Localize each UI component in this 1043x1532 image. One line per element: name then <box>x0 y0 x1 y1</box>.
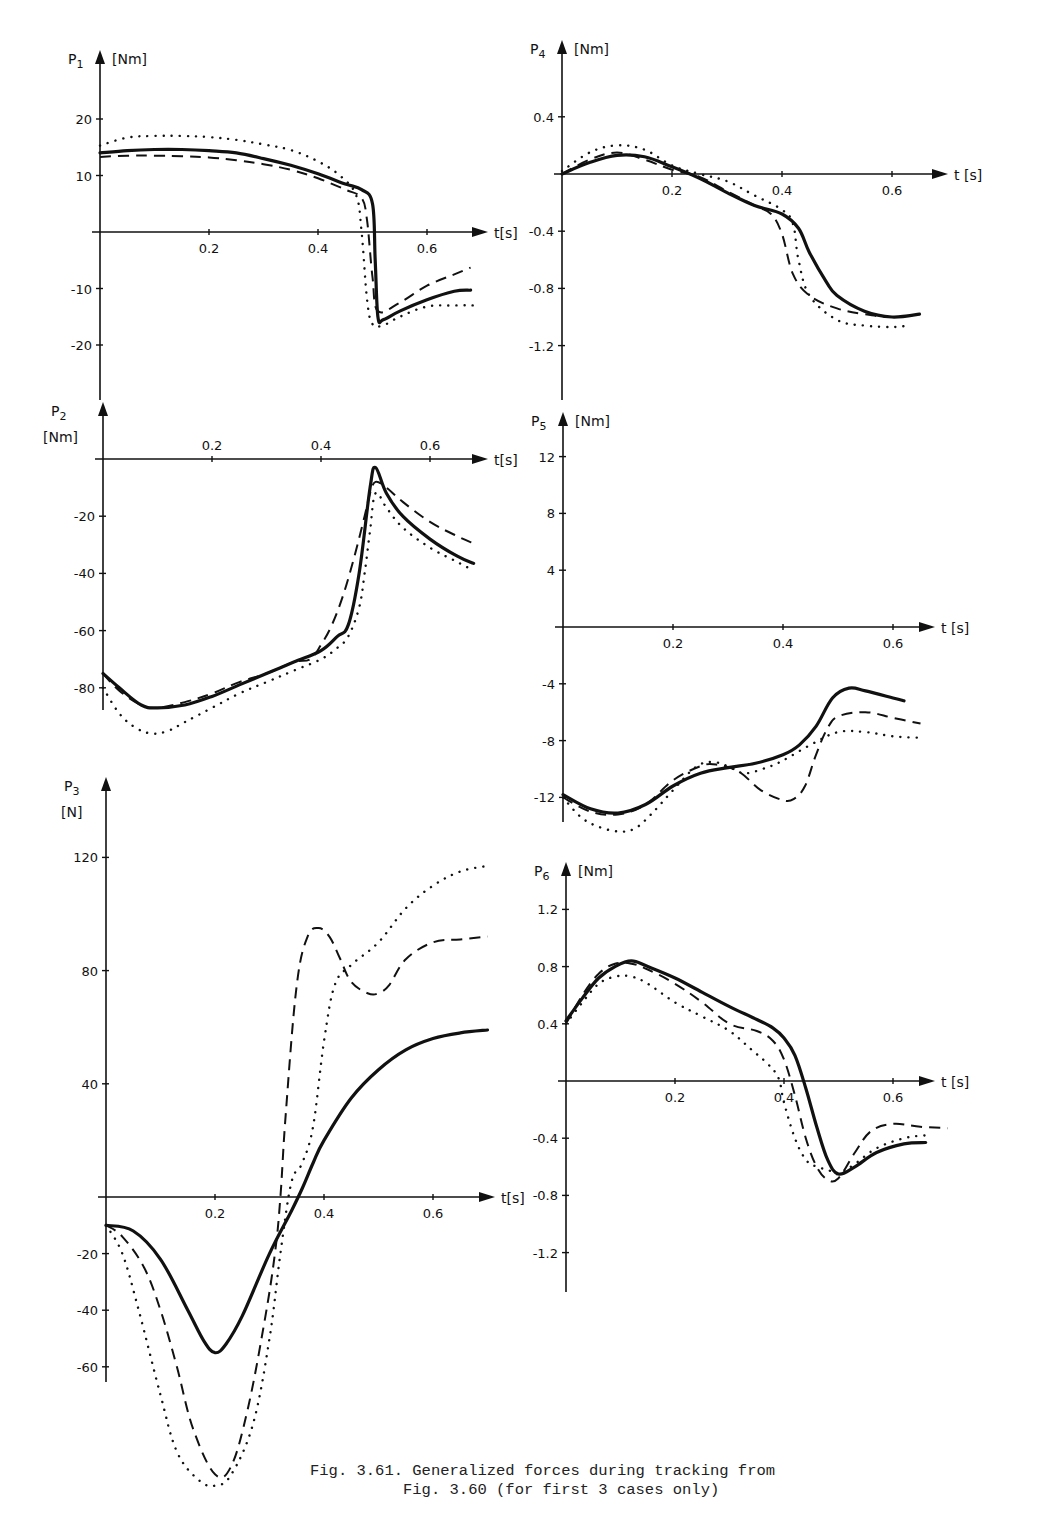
y-axis-unit: [Nm] <box>578 863 613 879</box>
x-tick-label: 0.4 <box>772 183 793 198</box>
x-axis-arrow-icon <box>919 622 935 632</box>
x-axis-label: t[s] <box>494 452 518 468</box>
y-tick-label: -0.8 <box>533 1188 558 1203</box>
x-tick-label: 0.6 <box>423 1206 444 1221</box>
x-tick-label: 0.2 <box>199 241 220 256</box>
y-axis-unit: [N] <box>61 804 82 820</box>
y-tick-label: 120 <box>73 850 98 865</box>
y-tick-label: 0.8 <box>537 960 558 975</box>
series-dotted <box>562 145 909 327</box>
y-axis-unit: [Nm] <box>43 429 78 445</box>
y-axis-arrow-icon <box>95 50 105 64</box>
x-tick-label: 0.4 <box>773 636 794 651</box>
y-tick-label: -40 <box>74 566 95 581</box>
y-tick-label: -60 <box>74 624 95 639</box>
x-tick-label: 0.6 <box>417 241 438 256</box>
series-solid <box>563 688 904 813</box>
y-tick-label: -4 <box>542 677 555 692</box>
y-axis-unit: [Nm] <box>575 413 610 429</box>
series-solid <box>106 1030 488 1353</box>
x-axis-label: t[s] <box>494 225 518 241</box>
y-axis-unit: [Nm] <box>112 51 147 67</box>
x-axis-arrow-icon <box>472 227 488 237</box>
y-tick-label: 12 <box>538 450 555 465</box>
panel-p6: 0.20.40.61.20.80.4-0.4-0.8-1.2t [s]P6[Nm… <box>533 862 970 1292</box>
figure-caption: Fig. 3.61. Generalized forces during tra… <box>310 1462 775 1500</box>
x-tick-label: 0.6 <box>883 636 904 651</box>
y-axis-symbol: P1 <box>68 51 83 71</box>
y-axis-arrow-icon <box>101 777 111 791</box>
y-tick-label: 1.2 <box>537 902 558 917</box>
y-tick-label: -8 <box>542 734 555 749</box>
series-dashed <box>100 156 471 313</box>
y-tick-label: 8 <box>547 506 555 521</box>
y-axis-symbol: P6 <box>534 863 549 883</box>
y-tick-label: -20 <box>77 1247 98 1262</box>
y-tick-label: 10 <box>75 169 92 184</box>
series-solid <box>562 155 920 317</box>
y-tick-label: 40 <box>81 1077 98 1092</box>
caption-line-2: Fig. 3.60 (for first 3 cases only) <box>310 1481 719 1499</box>
panel-p2: 0.20.40.6-20-40-60-80t[s]P2[Nm] <box>43 402 518 734</box>
x-axis-arrow-icon <box>479 1192 495 1202</box>
y-axis-arrow-icon <box>557 40 567 54</box>
y-tick-label: -20 <box>74 509 95 524</box>
x-tick-label: 0.2 <box>202 438 223 453</box>
y-tick-label: -1.2 <box>529 339 554 354</box>
figure-canvas: 0.20.40.62010-10-20t[s]P1[Nm]0.20.40.6-2… <box>0 0 1043 1532</box>
y-tick-label: 20 <box>75 112 92 127</box>
y-tick-label: 4 <box>547 563 555 578</box>
x-tick-label: 0.2 <box>205 1206 226 1221</box>
y-tick-label: -0.4 <box>533 1131 558 1146</box>
y-tick-label: -40 <box>77 1303 98 1318</box>
y-tick-label: -0.4 <box>529 224 554 239</box>
panel-p3: 0.20.40.61208040-20-40-60t[s]P3[N] <box>61 777 525 1486</box>
series-dotted <box>106 866 488 1486</box>
y-tick-label: 0.4 <box>537 1017 558 1032</box>
x-axis-arrow-icon <box>472 454 488 464</box>
x-tick-label: 0.2 <box>662 183 683 198</box>
y-tick-label: -1.2 <box>533 1246 558 1261</box>
series-dotted <box>566 976 926 1175</box>
x-axis-label: t [s] <box>941 1074 969 1090</box>
series-solid <box>103 467 474 707</box>
y-axis-arrow-icon <box>561 862 571 876</box>
y-axis-unit: [Nm] <box>574 41 609 57</box>
x-axis-arrow-icon <box>919 1076 935 1086</box>
y-axis-arrow-icon <box>558 412 568 426</box>
panel-p1: 0.20.40.62010-10-20t[s]P1[Nm] <box>68 50 518 400</box>
x-axis-label: t [s] <box>954 167 982 183</box>
x-tick-label: 0.2 <box>665 1090 686 1105</box>
y-tick-label: -0.8 <box>529 281 554 296</box>
y-tick-label: -20 <box>71 338 92 353</box>
y-axis-symbol: P2 <box>51 403 66 423</box>
caption-line-1: Fig. 3.61. Generalized forces during tra… <box>310 1462 775 1480</box>
x-axis-label: t[s] <box>501 1190 525 1206</box>
y-tick-label: -12 <box>534 790 555 805</box>
series-dashed <box>103 482 474 708</box>
y-tick-label: -10 <box>71 282 92 297</box>
panel-p5: 0.20.40.61284-4-8-12t [s]P5[Nm] <box>531 412 969 832</box>
series-dashed <box>562 153 920 317</box>
series-dashed <box>563 712 921 815</box>
x-tick-label: 0.4 <box>308 241 329 256</box>
y-tick-label: -60 <box>77 1360 98 1375</box>
x-axis-label: t [s] <box>941 620 969 636</box>
y-axis-symbol: P4 <box>530 41 545 61</box>
series-dotted <box>563 731 921 832</box>
y-tick-label: 80 <box>81 964 98 979</box>
x-tick-label: 0.6 <box>420 438 441 453</box>
x-tick-label: 0.4 <box>314 1206 335 1221</box>
x-axis-arrow-icon <box>932 169 948 179</box>
y-tick-label: 0.4 <box>533 110 554 125</box>
x-tick-label: 0.2 <box>663 636 684 651</box>
x-tick-label: 0.6 <box>882 183 903 198</box>
y-axis-symbol: P3 <box>64 778 79 798</box>
x-tick-label: 0.4 <box>311 438 332 453</box>
y-axis-arrow-icon <box>98 402 108 416</box>
panel-p4: 0.20.40.60.4-0.4-0.8-1.2t [s]P4[Nm] <box>529 40 983 400</box>
y-axis-symbol: P5 <box>531 413 546 433</box>
y-tick-label: -80 <box>74 681 95 696</box>
series-solid <box>566 961 926 1174</box>
x-tick-label: 0.6 <box>883 1090 904 1105</box>
